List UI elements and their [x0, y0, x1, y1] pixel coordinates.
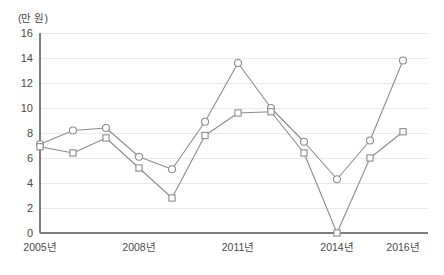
data-point-marker: [136, 165, 142, 171]
series-polyline: [40, 61, 403, 180]
series-circle: [37, 57, 407, 183]
y-tick-label: 14: [21, 52, 33, 64]
x-axis-tick-labels: 2005년2008년2011년2014년2016년: [23, 241, 419, 253]
data-point-marker: [70, 127, 77, 134]
series-square: [37, 109, 406, 236]
y-tick-label: 12: [21, 77, 33, 89]
y-tick-label: 8: [27, 127, 33, 139]
series-container: [37, 57, 407, 236]
data-point-marker: [367, 155, 373, 161]
x-tick-label: 2016년: [386, 241, 419, 253]
x-tick-label: 2014년: [320, 241, 353, 253]
data-point-marker: [334, 230, 340, 236]
x-tick-label: 2011년: [222, 241, 255, 253]
gridlines: [40, 33, 428, 208]
y-tick-label: 6: [27, 152, 33, 164]
data-point-marker: [202, 132, 208, 138]
y-tick-label: 10: [21, 102, 33, 114]
line-chart: (만 원) 0246810121416 2005년2008년2011년2014년…: [0, 0, 444, 275]
data-point-marker: [301, 150, 307, 156]
data-point-marker: [301, 138, 308, 145]
y-tick-label: 2: [27, 202, 33, 214]
data-point-marker: [37, 144, 43, 150]
series-polyline: [40, 112, 403, 233]
data-point-marker: [169, 195, 175, 201]
data-point-marker: [202, 118, 209, 125]
chart-canvas: (만 원) 0246810121416 2005년2008년2011년2014년…: [0, 0, 444, 275]
data-point-marker: [367, 137, 374, 144]
data-point-marker: [169, 166, 176, 173]
data-point-marker: [136, 153, 143, 160]
y-tick-label: 16: [21, 27, 33, 39]
data-point-marker: [235, 60, 242, 67]
y-axis-tick-labels: 0246810121416: [21, 27, 33, 239]
y-tick-label: 4: [27, 177, 33, 189]
y-axis-unit-label: (만 원): [18, 12, 48, 24]
x-tick-label: 2008년: [122, 241, 155, 253]
data-point-marker: [400, 129, 406, 135]
x-tick-label: 2005년: [23, 241, 56, 253]
data-point-marker: [103, 135, 109, 141]
data-point-marker: [103, 125, 110, 132]
data-point-marker: [400, 57, 407, 64]
data-point-marker: [70, 150, 76, 156]
data-point-marker: [268, 109, 274, 115]
data-point-marker: [334, 176, 341, 183]
data-point-marker: [235, 110, 241, 116]
y-tick-label: 0: [27, 227, 33, 239]
